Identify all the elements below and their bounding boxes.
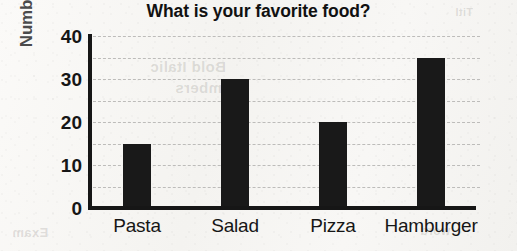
bar-pizza — [319, 122, 347, 208]
plot-area — [88, 36, 480, 208]
bleed-through-text: Exam — [12, 225, 48, 240]
bar-salad — [221, 79, 249, 208]
x-axis-tick-label-salad: Salad — [186, 212, 284, 239]
chart-page: Bold Italic numbers Titl Exam word What … — [0, 0, 517, 251]
y-axis-line — [88, 34, 92, 210]
gridline — [88, 36, 480, 37]
x-axis-line — [88, 206, 476, 210]
x-axis-tick-labels: PastaSaladPizzaHamburger — [88, 212, 480, 244]
bar-hamburger — [417, 58, 445, 209]
y-axis-tick-labels: 403020100 — [46, 0, 82, 251]
x-axis-tick-label-pasta: Pasta — [88, 212, 186, 239]
y-axis-tick-label: 40 — [48, 27, 82, 46]
y-axis-tick-label: 30 — [48, 70, 82, 89]
y-axis-title: Number of People — [14, 0, 40, 62]
y-axis-tick-label: 20 — [48, 113, 82, 132]
bar-pasta — [123, 144, 151, 209]
y-axis-tick-label: 10 — [48, 156, 82, 175]
x-axis-tick-label-hamburger: Hamburger — [382, 212, 480, 239]
x-axis-tick-label-pizza: Pizza — [284, 212, 382, 239]
y-axis-tick-label: 0 — [48, 199, 82, 218]
